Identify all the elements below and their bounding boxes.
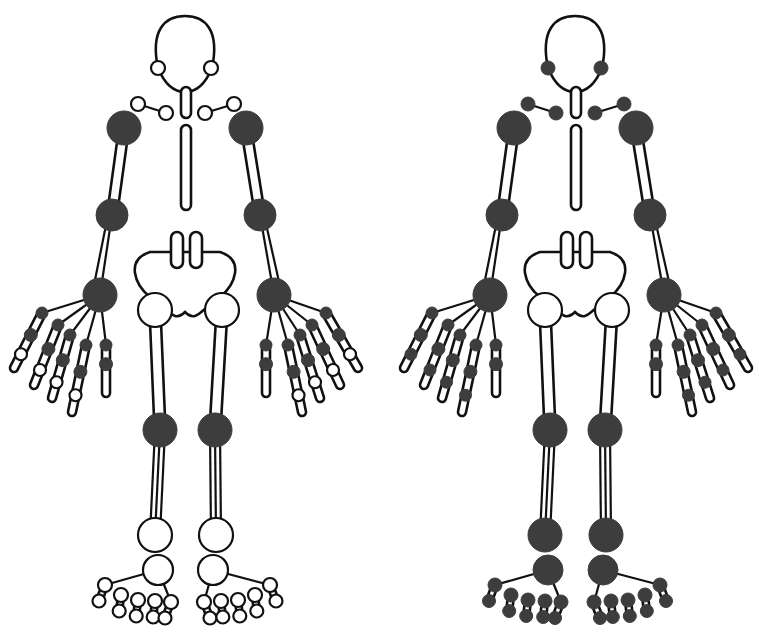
joint-toes_ip bbox=[159, 612, 172, 625]
joint-ankles bbox=[528, 518, 562, 552]
joint-shoulders bbox=[497, 111, 531, 145]
joint-toes_ip bbox=[130, 610, 143, 623]
joint-hand_dip bbox=[699, 376, 711, 388]
joint-hand_pip bbox=[650, 358, 663, 371]
joint-toes_ip bbox=[537, 611, 550, 624]
joint-hand_mcp bbox=[684, 329, 696, 341]
joint-temporomandibular bbox=[204, 61, 218, 75]
joint-toes_ip bbox=[503, 605, 516, 618]
joint-hand_mcp bbox=[306, 319, 318, 331]
joint-hand_pip bbox=[332, 329, 345, 342]
joint-hand_pip bbox=[56, 354, 69, 367]
joint-shoulders bbox=[107, 111, 141, 145]
joint-hand_mcp bbox=[294, 329, 306, 341]
joint-hand_mcp bbox=[696, 319, 708, 331]
joint-hand_pip bbox=[100, 358, 113, 371]
joint-hand_dip bbox=[460, 389, 472, 401]
joint-sternoclavicular bbox=[198, 106, 212, 120]
joint-hand_pip bbox=[74, 365, 87, 378]
joint-toes_mtp bbox=[248, 588, 262, 602]
bone bbox=[171, 232, 183, 268]
joint-toes_ip bbox=[216, 611, 229, 624]
joint-hand_dip bbox=[15, 348, 27, 360]
joint-hand_mcp bbox=[470, 339, 482, 351]
joint-toes_mtp bbox=[214, 594, 228, 608]
joint-sternoclavicular bbox=[159, 106, 173, 120]
joint-knees bbox=[588, 413, 622, 447]
joint-toes_ip bbox=[204, 612, 217, 625]
joint-hand_mcp bbox=[442, 319, 454, 331]
joint-toes_mtp bbox=[638, 588, 652, 602]
joint-hand_dip bbox=[327, 364, 339, 376]
joint-hips bbox=[205, 293, 239, 327]
joint-ankles bbox=[589, 518, 623, 552]
joint-toes_ip bbox=[520, 610, 533, 623]
joint-hand_mcp bbox=[52, 319, 64, 331]
joint-hand_mcp bbox=[100, 339, 112, 351]
joint-acromioclavicular bbox=[227, 97, 241, 111]
bone bbox=[571, 125, 581, 210]
joint-hand_dip bbox=[405, 348, 417, 360]
left-figure bbox=[9, 16, 364, 625]
joint-midfoot bbox=[198, 555, 228, 585]
joint-toes_ip bbox=[623, 610, 636, 623]
joint-hand_mcp bbox=[454, 329, 466, 341]
joint-toes_mtp bbox=[148, 594, 162, 608]
joint-hand_mcp bbox=[490, 339, 502, 351]
right-figure bbox=[399, 16, 754, 625]
joint-hand_dip bbox=[51, 376, 63, 388]
joint-hand_pip bbox=[414, 329, 427, 342]
joint-hand_pip bbox=[317, 343, 330, 356]
joint-hand_mcp bbox=[64, 329, 76, 341]
bone bbox=[561, 232, 573, 268]
joint-toes_mtp bbox=[263, 578, 277, 592]
bone bbox=[181, 87, 191, 118]
joint-toes_mtp bbox=[197, 595, 211, 609]
joint-hand_mcp bbox=[260, 339, 272, 351]
joint-acromioclavicular bbox=[131, 97, 145, 111]
joint-hand_dip bbox=[734, 348, 746, 360]
joint-shoulders bbox=[619, 111, 653, 145]
joint-toes_mtp bbox=[488, 578, 502, 592]
joint-hand_pip bbox=[692, 354, 705, 367]
joint-midfoot bbox=[143, 555, 173, 585]
joint-ankles bbox=[138, 518, 172, 552]
joint-midfoot bbox=[533, 555, 563, 585]
joint-hand_dip bbox=[34, 364, 46, 376]
joint-hand_pip bbox=[42, 343, 55, 356]
joint-sternoclavicular bbox=[549, 106, 563, 120]
joint-hand_pip bbox=[260, 358, 273, 371]
joint-hand_mcp bbox=[710, 307, 722, 319]
joint-midfoot bbox=[588, 555, 618, 585]
joint-hand_pip bbox=[707, 343, 720, 356]
joint-hand_mcp bbox=[426, 307, 438, 319]
joint-temporomandibular bbox=[541, 61, 555, 75]
joint-hips bbox=[138, 293, 172, 327]
joint-toes_ip bbox=[549, 612, 562, 625]
bone bbox=[571, 87, 581, 118]
joint-hand_pip bbox=[490, 358, 503, 371]
joint-hips bbox=[595, 293, 629, 327]
joint-hand_dip bbox=[309, 376, 321, 388]
joint-elbows bbox=[96, 199, 128, 231]
joint-hand_pip bbox=[287, 365, 300, 378]
joint-hand_mcp bbox=[320, 307, 332, 319]
joint-toes_mtp bbox=[538, 594, 552, 608]
joint-toes_mtp bbox=[98, 578, 112, 592]
joint-toes_mtp bbox=[231, 593, 245, 607]
joint-toes_ip bbox=[113, 605, 126, 618]
joint-toes_ip bbox=[594, 612, 607, 625]
joint-hand_dip bbox=[293, 389, 305, 401]
joint-toes_mtp bbox=[114, 588, 128, 602]
joint-sternoclavicular bbox=[588, 106, 602, 120]
joint-hand_mcp bbox=[80, 339, 92, 351]
joint-acromioclavicular bbox=[521, 97, 535, 111]
joint-toes_ip bbox=[233, 610, 246, 623]
joint-ankles bbox=[199, 518, 233, 552]
joint-toes_mtp bbox=[521, 593, 535, 607]
joint-acromioclavicular bbox=[617, 97, 631, 111]
joint-toes_mtp bbox=[504, 588, 518, 602]
joint-hand_pip bbox=[464, 365, 477, 378]
joint-hand_pip bbox=[302, 354, 315, 367]
joint-toes_ip bbox=[606, 611, 619, 624]
